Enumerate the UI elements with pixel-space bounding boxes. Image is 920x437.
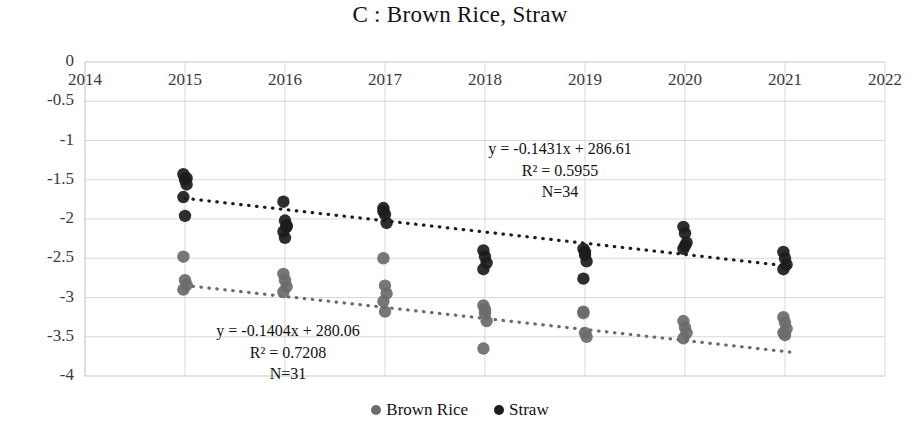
data-point xyxy=(779,329,791,341)
data-point xyxy=(177,283,189,295)
data-point xyxy=(379,305,391,317)
y-axis-tick-label: -0.5 xyxy=(12,90,74,110)
data-point xyxy=(477,263,489,275)
annotation-line: y = -0.1404x + 280.06 xyxy=(138,320,438,342)
annotation-line: R² = 0.7208 xyxy=(138,342,438,364)
data-point xyxy=(579,246,591,258)
data-point xyxy=(480,315,492,327)
data-point xyxy=(477,342,489,354)
x-axis-tick-label: 2021 xyxy=(740,70,830,90)
y-axis-tick-label: -2 xyxy=(12,208,74,228)
data-point xyxy=(177,191,189,203)
annotation-line: R² = 0.5955 xyxy=(410,160,710,182)
data-point xyxy=(679,239,691,251)
data-point xyxy=(280,219,292,231)
x-axis-tick-label: 2020 xyxy=(640,70,730,90)
annotation-brownrice-stats: y = -0.1404x + 280.06R² = 0.7208N=31 xyxy=(138,320,438,385)
legend-label: Straw xyxy=(509,400,549,420)
x-axis-tick-label: 2017 xyxy=(340,70,430,90)
x-axis-tick-label: 2016 xyxy=(240,70,330,90)
annotation-line: N=31 xyxy=(138,363,438,385)
y-axis-tick-label: 0 xyxy=(12,51,74,71)
y-axis-tick-label: -3.5 xyxy=(12,326,74,346)
data-point xyxy=(479,303,491,315)
chart-container: C : Brown Rice, Straw 0-0.5-1-1.5-2-2.5-… xyxy=(0,0,920,437)
legend-item-straw[interactable]: Straw xyxy=(494,400,549,420)
chart-legend: Brown RiceStraw xyxy=(0,400,920,420)
x-axis-tick-label: 2018 xyxy=(440,70,530,90)
data-point xyxy=(279,232,291,244)
legend-label: Brown Rice xyxy=(386,400,468,420)
y-axis-tick-label: -4 xyxy=(12,365,74,385)
annotation-line: y = -0.1431x + 286.61 xyxy=(410,138,710,160)
y-axis-tick-label: -1 xyxy=(12,130,74,150)
data-point xyxy=(580,331,592,343)
annotation-line: N=34 xyxy=(410,181,710,203)
x-axis-tick-label: 2022 xyxy=(840,70,920,90)
y-axis-tick-label: -3 xyxy=(12,287,74,307)
y-axis-tick-label: -1.5 xyxy=(12,169,74,189)
data-point xyxy=(277,196,289,208)
x-axis-tick-label: 2019 xyxy=(540,70,630,90)
data-point xyxy=(677,332,689,344)
data-point xyxy=(180,172,192,184)
x-axis-tick-label: 2015 xyxy=(140,70,230,90)
data-point xyxy=(777,263,789,275)
annotation-straw-stats: y = -0.1431x + 286.61R² = 0.5955N=34 xyxy=(410,138,710,203)
data-point xyxy=(577,272,589,284)
data-point xyxy=(177,250,189,262)
data-point xyxy=(277,286,289,298)
legend-item-brown-rice[interactable]: Brown Rice xyxy=(371,400,468,420)
data-point xyxy=(377,252,389,264)
data-point xyxy=(377,205,389,217)
data-point xyxy=(380,217,392,229)
legend-marker-icon xyxy=(371,405,381,415)
y-axis-tick-label: -2.5 xyxy=(12,247,74,267)
data-point xyxy=(179,210,191,222)
data-point xyxy=(577,305,589,317)
x-axis-tick-label: 2014 xyxy=(40,70,130,90)
legend-marker-icon xyxy=(494,405,504,415)
